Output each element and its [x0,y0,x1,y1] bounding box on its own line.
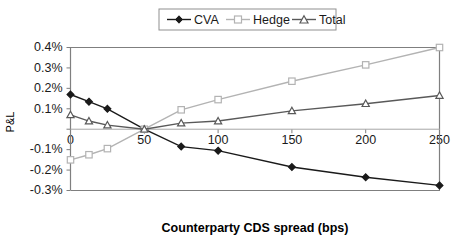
y-tick-label: 0.1% [34,102,63,116]
data-point-hedge [363,62,369,68]
pl-vs-cds-spread-line-chart: CVA Hedge Total 0.4%0.3%0.2%0.1%-0.1%-0.… [0,0,456,245]
y-axis-ticks: 0.4%0.3%0.2%0.1%-0.1%-0.2%-0.3% [30,40,71,197]
x-tick-label: 100 [208,133,229,147]
series-line-hedge [71,48,440,160]
legend-label-cva: CVA [194,13,219,27]
x-tick-label: 200 [355,133,376,147]
data-point-hedge [178,107,184,113]
y-tick-label: 0.3% [34,61,63,75]
data-point-cva [178,143,185,150]
data-point-cva [289,164,296,171]
y-tick-label: -0.3% [30,183,63,197]
y-tick-label: -0.2% [30,163,63,177]
series-line-total [71,96,440,130]
x-axis-title: Counterparty CDS spread (bps) [162,221,349,235]
data-point-hedge [215,96,221,102]
chart-container: CVA Hedge Total 0.4%0.3%0.2%0.1%-0.1%-0.… [0,0,456,245]
legend-label-hedge: Hedge [253,13,290,27]
y-tick-label: 0.2% [34,81,63,95]
data-point-hedge [86,152,92,158]
data-point-hedge [104,145,110,151]
chart-legend: CVA Hedge Total [159,9,345,30]
x-tick-label: 150 [281,133,302,147]
x-axis-ticks: 050100150200250 [67,129,450,147]
legend-label-total: Total [319,13,345,27]
y-axis-title: P&L [4,112,16,133]
legend-marker-square-icon [235,16,242,23]
x-tick-label: 50 [137,133,151,147]
data-point-hedge [289,78,295,84]
data-point-total [67,111,74,117]
data-point-hedge [436,44,442,50]
series-total [67,92,443,132]
data-point-cva [215,147,222,154]
series-layer [67,44,443,188]
y-tick-label: 0.4% [34,40,63,54]
data-point-cva [362,174,369,181]
y-tick-label: -0.1% [30,142,63,156]
data-point-cva [104,105,111,112]
series-hedge [67,44,442,163]
data-point-cva [86,98,93,105]
data-point-cva [67,91,74,98]
series-line-cva [71,94,440,185]
data-point-cva [436,182,443,189]
data-point-hedge [67,157,73,163]
